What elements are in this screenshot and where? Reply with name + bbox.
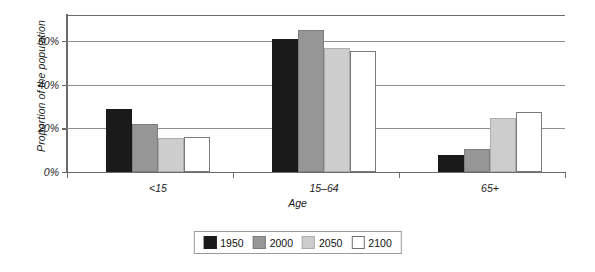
- y-tick-label: 60%: [38, 35, 59, 47]
- bar: [464, 149, 490, 172]
- x-tick-mark: [233, 172, 234, 178]
- bar: [106, 109, 132, 172]
- bar: [438, 155, 464, 172]
- x-tick-mark: [565, 172, 566, 178]
- x-category-label: <15: [149, 182, 167, 194]
- bar-chart-figure: Proportion of the population 0%20%40%60%…: [0, 0, 595, 272]
- bar: [272, 39, 298, 172]
- legend-swatch-icon: [302, 236, 315, 249]
- x-axis-title: Age: [0, 197, 595, 209]
- y-tick-mark: [62, 85, 67, 86]
- legend-label: 2000: [270, 237, 293, 249]
- plot-area: 0%20%40%60% <1515–6465+: [67, 15, 565, 172]
- y-tick-label: 0%: [44, 166, 59, 178]
- legend-swatch-icon: [253, 236, 266, 249]
- y-axis-line: [66, 14, 68, 173]
- legend-item: 2000: [253, 236, 293, 249]
- legend-label: 2100: [368, 237, 391, 249]
- legend-label: 1950: [220, 237, 243, 249]
- x-category-label: 65+: [481, 182, 499, 194]
- x-tick-mark: [399, 172, 400, 178]
- x-tick-mark: [67, 172, 68, 178]
- legend-item: 2100: [351, 236, 391, 249]
- y-tick-label: 20%: [38, 122, 59, 134]
- y-tick-label: 40%: [38, 79, 59, 91]
- bar: [490, 118, 516, 173]
- bar: [132, 124, 158, 172]
- legend-label: 2050: [319, 237, 342, 249]
- legend-item: 2050: [302, 236, 342, 249]
- bar: [350, 51, 376, 172]
- x-category-label: 15–64: [309, 182, 338, 194]
- legend-swatch-icon: [203, 236, 216, 249]
- bar: [324, 48, 350, 172]
- y-tick-mark: [62, 41, 67, 42]
- bar: [184, 137, 210, 172]
- y-tick-mark: [62, 128, 67, 129]
- legend-swatch-icon: [351, 236, 364, 249]
- plot-top-border: [67, 15, 565, 16]
- bar: [158, 138, 184, 172]
- legend: 1950200020502100: [193, 231, 401, 254]
- legend-item: 1950: [203, 236, 243, 249]
- bar: [516, 112, 542, 172]
- bar: [298, 30, 324, 172]
